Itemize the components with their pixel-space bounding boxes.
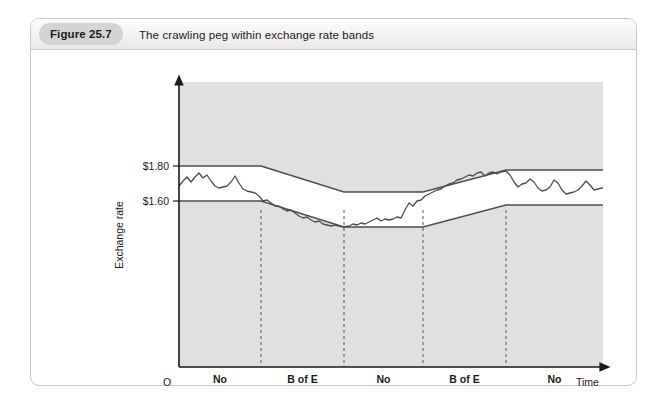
y-tick-label-180: $1.80 <box>143 160 169 172</box>
origin-label: O <box>163 376 171 386</box>
y-tick-label-160: $1.60 <box>143 195 169 207</box>
regime-label-2-line1: B of E <box>287 373 317 385</box>
figure-caption: The crawling peg within exchange rate ba… <box>139 19 374 50</box>
regime-label-1-line1: No <box>213 373 227 385</box>
regime-label-3-line1: No <box>377 373 391 385</box>
crawling-peg-chart: $1.80 $1.60 Exchange rate O Time Nointer… <box>31 50 638 386</box>
regime-label-4-line1: B of E <box>449 373 479 385</box>
figure-number-badge: Figure 25.7 <box>39 23 123 45</box>
regime-label-5-line1: No <box>548 373 562 385</box>
figure-header: Figure 25.7 The crawling peg within exch… <box>31 19 636 50</box>
regime-labels: NointerventionB of Ebuys poundsNointerve… <box>190 373 585 386</box>
y-axis-title: Exchange rate <box>113 201 125 269</box>
figure-card: Figure 25.7 The crawling peg within exch… <box>30 18 637 386</box>
x-axis-title: Time <box>576 376 599 386</box>
chart-plot-area: $1.80 $1.60 Exchange rate O Time Nointer… <box>31 50 636 386</box>
